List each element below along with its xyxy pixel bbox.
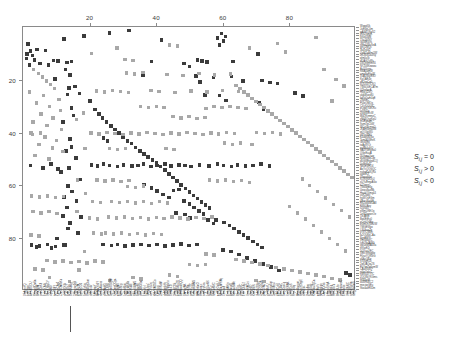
right-axis-tick bbox=[356, 175, 359, 176]
data-point bbox=[82, 111, 85, 114]
data-point bbox=[131, 243, 135, 247]
right-axis-tick bbox=[356, 51, 359, 52]
right-axis-tick bbox=[356, 75, 359, 76]
data-point bbox=[26, 42, 30, 46]
data-point bbox=[217, 132, 220, 135]
data-point bbox=[168, 273, 171, 276]
data-point bbox=[216, 36, 220, 40]
right-axis-tick bbox=[356, 109, 359, 110]
data-point bbox=[203, 116, 206, 119]
data-point bbox=[70, 60, 74, 64]
right-axis-tick bbox=[356, 207, 359, 208]
data-point bbox=[25, 57, 29, 61]
data-point bbox=[62, 243, 66, 247]
data-point bbox=[65, 206, 69, 210]
data-point bbox=[35, 48, 39, 52]
data-point bbox=[155, 164, 159, 168]
right-axis-tick bbox=[356, 41, 359, 42]
data-point bbox=[293, 91, 297, 95]
right-axis-tick bbox=[356, 141, 359, 142]
right-axis-tick bbox=[356, 96, 359, 97]
data-point bbox=[56, 167, 60, 171]
data-point bbox=[238, 87, 241, 90]
data-point bbox=[90, 52, 93, 55]
data-point bbox=[99, 201, 102, 204]
data-points-layer bbox=[23, 27, 354, 289]
legend-swatch-negative-icon bbox=[404, 179, 410, 185]
data-point bbox=[271, 131, 274, 134]
data-point bbox=[127, 29, 131, 33]
data-point bbox=[324, 196, 327, 199]
data-point bbox=[70, 190, 74, 194]
right-axis-tick bbox=[356, 275, 359, 276]
data-point bbox=[108, 164, 112, 168]
data-point bbox=[106, 139, 110, 143]
data-point bbox=[266, 264, 269, 267]
data-point bbox=[103, 90, 106, 93]
data-point bbox=[189, 165, 193, 169]
data-point bbox=[128, 233, 131, 236]
left-axis-tick-label: 20 bbox=[9, 76, 16, 83]
data-point bbox=[282, 122, 285, 125]
data-point bbox=[207, 164, 211, 168]
data-point bbox=[102, 162, 106, 166]
data-point bbox=[279, 132, 282, 135]
right-axis-tick bbox=[356, 270, 359, 271]
data-point bbox=[51, 116, 54, 119]
data-point bbox=[60, 128, 63, 131]
data-point bbox=[254, 100, 257, 103]
data-point bbox=[202, 217, 205, 220]
data-point bbox=[316, 190, 319, 193]
data-point bbox=[126, 185, 129, 188]
right-axis-tick bbox=[356, 48, 359, 49]
data-point bbox=[39, 131, 42, 134]
data-point bbox=[41, 166, 45, 170]
data-point bbox=[53, 260, 56, 263]
right-axis-tick bbox=[356, 249, 359, 250]
data-point bbox=[47, 210, 50, 213]
right-axis-tick bbox=[356, 128, 359, 129]
data-point bbox=[123, 244, 127, 248]
data-point bbox=[188, 202, 192, 206]
data-point bbox=[236, 163, 240, 167]
left-axis-tick-label: 80 bbox=[9, 235, 16, 242]
data-point bbox=[45, 259, 48, 262]
right-axis-tick bbox=[356, 46, 359, 47]
data-point bbox=[96, 217, 99, 220]
data-point bbox=[224, 178, 227, 181]
data-point bbox=[38, 62, 42, 66]
data-point bbox=[31, 120, 34, 123]
data-point bbox=[82, 34, 86, 38]
data-point bbox=[48, 105, 51, 108]
right-axis-tick bbox=[356, 151, 359, 152]
data-point bbox=[221, 248, 225, 252]
data-point bbox=[146, 155, 150, 159]
data-point bbox=[150, 60, 154, 64]
right-axis-tick bbox=[356, 186, 359, 187]
data-point bbox=[49, 83, 52, 86]
top-axis-tick bbox=[156, 23, 157, 27]
data-point bbox=[237, 253, 241, 257]
data-point bbox=[188, 263, 191, 266]
data-point bbox=[45, 79, 48, 82]
data-point bbox=[83, 147, 86, 150]
data-point bbox=[163, 244, 167, 248]
data-point bbox=[171, 243, 175, 247]
right-axis-tick bbox=[356, 93, 359, 94]
data-point bbox=[28, 90, 31, 93]
data-point bbox=[31, 54, 35, 58]
data-point bbox=[55, 212, 58, 215]
data-point bbox=[314, 147, 317, 150]
data-point bbox=[209, 131, 212, 134]
top-axis-tick bbox=[223, 23, 224, 27]
top-axis-tick-label: 20 bbox=[86, 14, 93, 21]
data-point bbox=[54, 245, 58, 249]
bottom-axis-tick-label: tiSQgYeemS bbox=[354, 281, 357, 296]
data-point bbox=[64, 149, 68, 153]
right-axis-tick bbox=[356, 154, 359, 155]
data-point bbox=[66, 93, 70, 97]
data-point bbox=[147, 106, 150, 109]
data-point bbox=[162, 217, 165, 220]
data-point bbox=[222, 164, 226, 168]
data-point bbox=[37, 72, 40, 75]
